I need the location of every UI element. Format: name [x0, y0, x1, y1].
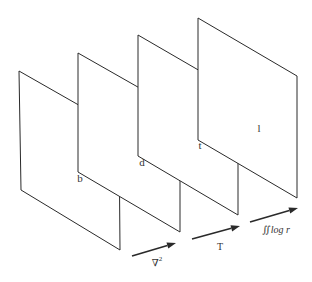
panels-layer	[19, 18, 297, 250]
panel-label-t: t	[198, 140, 201, 151]
nabla-symbol: ∇	[152, 257, 159, 268]
arrowhead-icon	[288, 207, 298, 213]
arrowhead-icon	[166, 242, 176, 248]
panel-label-d: d	[139, 157, 145, 168]
arrow-d-to-t	[192, 228, 231, 239]
superscript-2: 2	[159, 255, 163, 263]
arrow-t-to-l	[250, 211, 289, 222]
arrow-label-laplacian: ∇2	[152, 256, 162, 267]
arrow-label-transform: T	[217, 242, 223, 252]
diagram-svg	[0, 0, 312, 282]
arrowhead-icon	[230, 225, 240, 231]
arrow-label-integral-log-r: ∬log r	[262, 225, 290, 235]
panel-label-l: l	[257, 123, 260, 134]
diagram-canvas: b d t l ∇2 T ∬log r	[0, 0, 312, 282]
panel-label-b: b	[77, 173, 83, 184]
